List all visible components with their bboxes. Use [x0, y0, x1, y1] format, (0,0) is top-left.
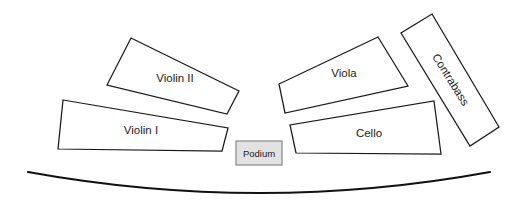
orchestra-seating-diagram: Violin I Violin II Viola Cello Contrabas… [0, 0, 521, 208]
section-label-viola: Viola [331, 67, 357, 79]
stage-front-arc [28, 172, 490, 193]
seating-canvas: Violin I Violin II Viola Cello Contrabas… [0, 0, 521, 208]
podium-label: Podium [243, 148, 275, 159]
section-label-violin-1: Violin I [124, 124, 158, 136]
section-label-violin-2: Violin II [156, 72, 194, 84]
section-label-cello: Cello [356, 127, 382, 139]
